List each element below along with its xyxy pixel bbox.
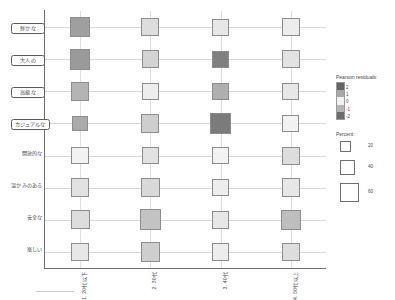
mosaic-cell xyxy=(210,113,231,134)
mosaic-cell xyxy=(282,243,300,261)
residual-tick-neg1: -1 xyxy=(346,108,350,113)
residual-gradient-segment xyxy=(337,112,344,119)
column-label-4: 4. 50代以上 xyxy=(293,272,298,300)
residual-tick-1: 1 xyxy=(346,93,349,98)
column-gridline xyxy=(221,11,222,268)
mosaic-cell xyxy=(72,116,88,132)
percent-legend: Percent: 204060 xyxy=(336,131,395,208)
mosaic-cell xyxy=(212,243,230,261)
mosaic-cell xyxy=(282,115,299,132)
row-label-2: 大人の xyxy=(11,55,45,66)
mosaic-cell xyxy=(140,209,161,230)
residual-tick-0: 0 xyxy=(346,100,349,105)
mosaic-cell xyxy=(70,17,90,37)
y-axis-line xyxy=(44,10,45,268)
mosaic-cell xyxy=(282,178,301,197)
row-label-5: 開放的な xyxy=(22,151,42,156)
row-label-4: カジュアルな xyxy=(11,119,50,130)
percent-legend-title: Percent: xyxy=(336,131,395,137)
mosaic-cell xyxy=(212,19,229,36)
mosaic-cell xyxy=(142,83,159,100)
percent-swatch-60 xyxy=(340,183,359,202)
mosaic-cell xyxy=(282,147,300,165)
row-label-3: 高級な xyxy=(11,87,45,98)
residual-scale: 210-1-2 xyxy=(336,82,395,122)
mosaic-cell xyxy=(212,179,230,197)
mosaic-cell xyxy=(282,50,300,68)
percent-legend-item: 40 xyxy=(336,158,395,181)
column-label-2: 2. 30代 xyxy=(152,272,157,290)
percent-item-group: 204060 xyxy=(336,139,395,208)
mosaic-cell xyxy=(282,83,299,100)
percent-label-40: 40 xyxy=(368,165,373,170)
mosaic-cell xyxy=(71,178,90,197)
row-label-8: 楽しい xyxy=(27,247,42,252)
mosaic-cell xyxy=(141,18,159,36)
mosaic-cell xyxy=(141,242,161,262)
percent-legend-item: 60 xyxy=(336,181,395,208)
residual-gradient-segment xyxy=(337,90,344,97)
pearson-residuals-title: Pearson residuals: xyxy=(336,74,395,80)
column-label-3: 3. 40代 xyxy=(223,272,228,290)
mosaic-cell xyxy=(70,49,91,70)
percent-label-60: 60 xyxy=(368,190,373,195)
pearson-residuals-legend: Pearson residuals: 210-1-2 xyxy=(336,74,395,122)
percent-swatch-40 xyxy=(340,160,355,175)
row-label-6: 温かみのある xyxy=(11,183,42,188)
residual-gradient-segment xyxy=(337,105,344,112)
percent-legend-item: 20 xyxy=(336,139,395,158)
mosaic-cell xyxy=(212,147,229,164)
residual-gradient-segment xyxy=(337,97,344,104)
mosaic-cell xyxy=(71,147,89,165)
column-label-1: 1. 20代以下 xyxy=(82,272,87,300)
mosaic-cell xyxy=(281,210,301,230)
x-axis-line xyxy=(44,268,326,269)
mosaic-cell xyxy=(141,114,159,132)
residual-tick-2: 2 xyxy=(346,86,349,91)
percent-swatch-20 xyxy=(340,141,351,152)
percent-label-20: 20 xyxy=(368,144,373,149)
residual-gradient-bar xyxy=(336,82,345,120)
mosaic-cell xyxy=(71,210,90,229)
mosaic-cell xyxy=(142,147,159,164)
residual-gradient-segment xyxy=(337,83,344,90)
mosaic-cell xyxy=(141,178,160,197)
mosaic-cell xyxy=(71,243,90,262)
row-label-1: 鮮かな xyxy=(11,23,45,34)
association-plot: 鮮かな大人の高級なカジュアルな開放的な温かみのある安全な楽しい 1. 20代以下… xyxy=(0,0,395,300)
residual-tick-neg2: -2 xyxy=(346,115,350,120)
mosaic-cell xyxy=(212,51,229,68)
mosaic-cell xyxy=(212,83,229,100)
mosaic-cell xyxy=(212,211,230,229)
mosaic-cell xyxy=(142,50,160,68)
bottom-rule-decoration xyxy=(36,291,74,292)
mosaic-cell xyxy=(71,82,90,101)
row-label-7: 安全な xyxy=(27,215,42,220)
mosaic-cell xyxy=(282,18,300,36)
